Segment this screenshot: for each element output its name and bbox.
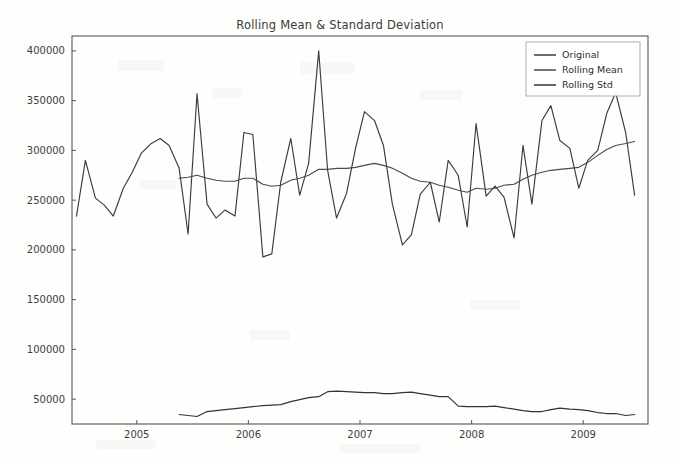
legend-label: Rolling Std bbox=[562, 79, 613, 90]
x-tick-label: 2006 bbox=[236, 429, 261, 440]
x-tick-label: 2008 bbox=[459, 429, 484, 440]
y-axis-ticks: 5000010000015000020000025000030000035000… bbox=[27, 45, 76, 404]
data-series-group bbox=[76, 51, 634, 417]
y-tick-label: 250000 bbox=[27, 195, 65, 206]
y-tick-label: 300000 bbox=[27, 145, 65, 156]
chart-canvas: 5000010000015000020000025000030000035000… bbox=[0, 0, 680, 460]
x-tick-label: 2009 bbox=[571, 429, 596, 440]
legend-label: Original bbox=[562, 49, 599, 60]
y-tick-label: 350000 bbox=[27, 95, 65, 106]
series-line-rolling-mean bbox=[179, 141, 634, 192]
y-tick-label: 400000 bbox=[27, 45, 65, 56]
legend-label: Rolling Mean bbox=[562, 64, 623, 75]
y-tick-label: 200000 bbox=[27, 244, 65, 255]
y-tick-label: 50000 bbox=[33, 394, 65, 405]
series-line-rolling-std bbox=[179, 391, 634, 416]
x-axis-ticks: 20052006200720082009 bbox=[124, 420, 596, 440]
chart-legend: OriginalRolling MeanRolling Std bbox=[526, 42, 640, 96]
matplotlib-figure: Rolling Mean & Standard Deviation 500001… bbox=[0, 0, 680, 460]
x-tick-label: 2007 bbox=[347, 429, 372, 440]
x-tick-label: 2005 bbox=[124, 429, 149, 440]
y-tick-label: 100000 bbox=[27, 344, 65, 355]
y-tick-label: 150000 bbox=[27, 294, 65, 305]
